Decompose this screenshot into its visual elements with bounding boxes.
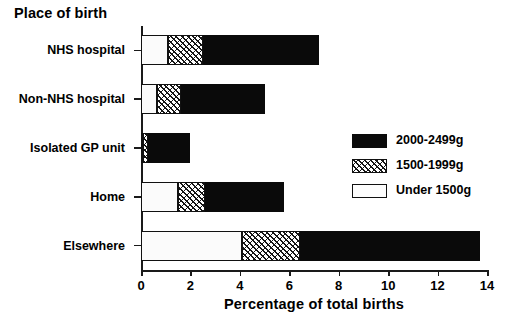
x-axis-line bbox=[141, 270, 487, 272]
bar-segment-top bbox=[181, 84, 265, 114]
legend-swatch-mid bbox=[352, 159, 387, 173]
y-axis-label-non-nhs-hospital: Non-NHS hospital bbox=[19, 92, 125, 106]
x-tick-label: 14 bbox=[467, 278, 507, 293]
y-axis-label-nhs-hospital: NHS hospital bbox=[47, 43, 125, 57]
bar-row bbox=[141, 84, 487, 114]
x-axis-title: Percentage of total births bbox=[141, 296, 487, 312]
x-tick-label: 4 bbox=[220, 278, 260, 293]
y-axis-label-home: Home bbox=[90, 190, 125, 204]
x-tick bbox=[487, 270, 489, 276]
x-tick-label: 8 bbox=[319, 278, 359, 293]
plot-area: 02468101214 bbox=[141, 26, 487, 270]
bar-segment-under bbox=[141, 84, 157, 114]
bar-segment-top bbox=[205, 182, 284, 212]
x-tick-label: 6 bbox=[269, 278, 309, 293]
y-tick bbox=[134, 50, 141, 52]
legend-swatch-top bbox=[352, 134, 387, 148]
x-tick bbox=[141, 270, 143, 276]
legend-label: 1500-1999g bbox=[396, 158, 463, 172]
y-tick bbox=[134, 245, 141, 247]
y-tick bbox=[134, 196, 141, 198]
y-axis-category-labels: NHS hospitalNon-NHS hospitalIsolated GP … bbox=[0, 0, 130, 329]
legend-label: 2000-2499g bbox=[396, 133, 463, 147]
x-tick bbox=[190, 270, 192, 276]
y-axis-label-elsewhere: Elsewhere bbox=[63, 239, 125, 253]
bar-segment-top bbox=[300, 231, 479, 261]
x-tick-label: 10 bbox=[368, 278, 408, 293]
x-tick-label: 12 bbox=[418, 278, 458, 293]
x-tick bbox=[438, 270, 440, 276]
bar-row bbox=[141, 231, 487, 261]
legend-swatch-under bbox=[352, 184, 387, 198]
y-axis-label-isolated-gp-unit: Isolated GP unit bbox=[30, 141, 125, 155]
bar-segment-top bbox=[148, 133, 190, 163]
bar-segment-mid bbox=[178, 182, 205, 212]
bar-segment-mid bbox=[168, 35, 203, 65]
bar-segment-mid bbox=[242, 231, 300, 261]
bar-segment-under bbox=[141, 231, 242, 261]
legend-label: Under 1500g bbox=[396, 183, 471, 197]
y-tick bbox=[134, 98, 141, 100]
x-tick-label: 0 bbox=[121, 278, 161, 293]
x-tick bbox=[240, 270, 242, 276]
x-tick bbox=[388, 270, 390, 276]
y-tick bbox=[134, 147, 141, 149]
chart-figure: Place of birth NHS hospitalNon-NHS hospi… bbox=[0, 0, 513, 329]
bar-segment-under bbox=[141, 35, 168, 65]
x-tick bbox=[289, 270, 291, 276]
bar-segment-top bbox=[203, 35, 319, 65]
bar-row bbox=[141, 35, 487, 65]
x-tick-label: 2 bbox=[170, 278, 210, 293]
bar-segment-under bbox=[141, 182, 178, 212]
x-tick bbox=[339, 270, 341, 276]
bar-segment-mid bbox=[157, 84, 180, 114]
